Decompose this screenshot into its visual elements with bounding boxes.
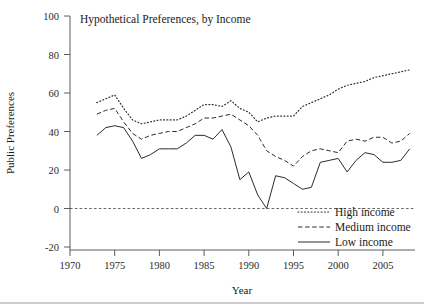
x-tick-label-1980: 1980 bbox=[149, 260, 170, 271]
series-line-low-income bbox=[97, 126, 410, 209]
y-tick-label-20: 20 bbox=[49, 165, 60, 176]
x-tick-label-2000: 2000 bbox=[328, 260, 349, 271]
y-tick-label-80: 80 bbox=[49, 50, 60, 61]
chart-legend: High income Medium income Low income bbox=[298, 206, 411, 248]
line-chart: 100 80 60 40 20 0 -20 1970 1975 1980 198… bbox=[0, 0, 424, 308]
y-axis-title: Public Preferences bbox=[4, 92, 16, 174]
x-tick-label-1985: 1985 bbox=[194, 260, 215, 271]
x-tick-label-1970: 1970 bbox=[60, 260, 81, 271]
y-tick-label-0: 0 bbox=[54, 204, 59, 215]
chart-title: Hypothetical Preferences, by Income bbox=[80, 13, 251, 26]
legend-label-low-income: Low income bbox=[335, 236, 393, 248]
legend-label-high-income: High income bbox=[335, 206, 395, 219]
chart-figure: 100 80 60 40 20 0 -20 1970 1975 1980 198… bbox=[0, 0, 424, 308]
y-tick-marks bbox=[64, 16, 70, 247]
x-tick-label-2005: 2005 bbox=[372, 260, 393, 271]
y-tick-label-minus20: -20 bbox=[45, 242, 59, 253]
series-line-high-income bbox=[97, 70, 410, 124]
y-tick-label-100: 100 bbox=[43, 11, 59, 22]
y-tick-label-40: 40 bbox=[49, 127, 60, 138]
y-tick-label-60: 60 bbox=[49, 88, 60, 99]
legend-label-medium-income: Medium income bbox=[335, 221, 411, 233]
x-tick-label-1975: 1975 bbox=[104, 260, 125, 271]
x-tick-label-1990: 1990 bbox=[238, 260, 259, 271]
x-tick-label-1995: 1995 bbox=[283, 260, 304, 271]
x-tick-marks bbox=[70, 250, 383, 256]
x-axis-title: Year bbox=[232, 284, 253, 296]
